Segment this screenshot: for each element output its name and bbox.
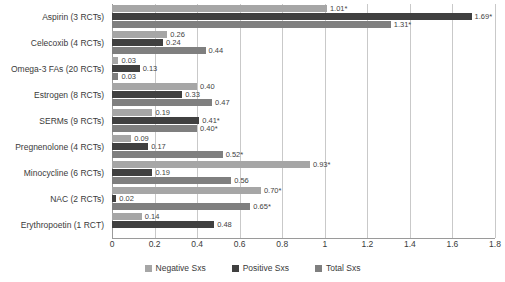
x-axis-tick-labels: 00.20.40.60.811.21.41.61.8 <box>112 240 495 254</box>
bar[interactable] <box>112 135 131 142</box>
bar-value-label: 0.17 <box>151 143 166 151</box>
bar-value-label: 0.09 <box>134 135 149 143</box>
bar-value-label: 0.93* <box>313 161 331 169</box>
bar-line: 1.01* <box>112 5 347 12</box>
bar[interactable] <box>112 143 148 150</box>
bar[interactable] <box>112 151 223 158</box>
bar-value-label: 0.02 <box>119 195 134 203</box>
bar-rows: 1.01*1.69*1.31*0.260.240.440.030.130.030… <box>112 4 495 238</box>
y-axis-label-7: NAC (2 RCTs) <box>0 195 104 204</box>
bar-value-label: 0.03 <box>121 57 136 65</box>
x-axis-tick: 0.4 <box>191 240 203 249</box>
bar-line: 0.14 <box>112 213 159 220</box>
bar[interactable] <box>112 109 152 116</box>
bar-line: 0.48 <box>112 221 232 228</box>
bar-value-label: 1.31* <box>394 21 412 29</box>
bar-value-label: 0.40 <box>200 83 215 91</box>
bar-value-label: 0.19 <box>155 169 170 177</box>
bar-line: 0.09 <box>112 135 149 142</box>
x-axis-line <box>112 238 495 239</box>
bar-line: 0.41* <box>112 117 220 124</box>
legend-label: Total Sxs <box>326 264 361 273</box>
bar-value-label: 0.33 <box>185 91 200 99</box>
bar[interactable] <box>112 213 142 220</box>
bar-line: 0.40 <box>112 83 215 90</box>
x-axis-tick: 1.8 <box>489 240 501 249</box>
bar-line: 1.69* <box>112 13 492 20</box>
legend-item-tot[interactable]: Total Sxs <box>315 264 361 273</box>
y-axis-label-1: Celecoxib (4 RCTs) <box>0 39 104 48</box>
y-axis-label-4: SERMs (9 RCTs) <box>0 117 104 126</box>
legend-swatch-icon <box>232 265 239 272</box>
bar-value-label: 0.48 <box>217 221 232 229</box>
bar-value-label: 0.56 <box>234 177 249 185</box>
bar[interactable] <box>112 221 214 228</box>
bar[interactable] <box>112 47 206 54</box>
bar-group: 0.70*0.020.65* <box>112 186 495 212</box>
bar-group: 0.030.130.03 <box>112 56 495 82</box>
bar-line: 0.26 <box>112 31 185 38</box>
bar-value-label: 0.40* <box>200 125 218 133</box>
bar[interactable] <box>112 39 163 46</box>
bar[interactable] <box>112 65 140 72</box>
bar[interactable] <box>112 99 212 106</box>
bar-line: 0.33 <box>112 91 200 98</box>
bar-group: 0.400.330.47 <box>112 82 495 108</box>
bar[interactable] <box>112 117 199 124</box>
bar-value-label: 0.65* <box>253 203 271 211</box>
bar[interactable] <box>112 57 118 64</box>
legend-item-neg[interactable]: Negative Sxs <box>145 264 206 273</box>
bar-value-label: 0.13 <box>143 65 158 73</box>
bar-line: 0.02 <box>112 195 134 202</box>
bar[interactable] <box>112 187 261 194</box>
bar-line: 0.17 <box>112 143 166 150</box>
bar[interactable] <box>112 195 116 202</box>
bar-line: 0.65* <box>112 203 271 210</box>
x-axis-tick: 0.8 <box>276 240 288 249</box>
bar-value-label: 0.70* <box>264 187 282 195</box>
y-axis-label-2: Omega-3 FAs (20 RCTs) <box>0 65 104 74</box>
y-axis-category-labels: Aspirin (3 RCTs)Celecoxib (4 RCTs)Omega-… <box>0 4 108 238</box>
bar-line: 0.70* <box>112 187 281 194</box>
bar-line: 0.44 <box>112 47 223 54</box>
bar-line: 0.52* <box>112 151 243 158</box>
bar-line: 0.13 <box>112 65 157 72</box>
y-axis-label-8: Erythropoetin (1 RCT) <box>0 221 104 230</box>
y-axis-label-3: Estrogen (8 RCTs) <box>0 91 104 100</box>
bar-line: 0.19 <box>112 109 170 116</box>
bar-value-label: 0.14 <box>145 213 160 221</box>
bar[interactable] <box>112 177 231 184</box>
bar[interactable] <box>112 125 197 132</box>
y-axis-label-0: Aspirin (3 RCTs) <box>0 13 104 22</box>
bar-line: 1.31* <box>112 21 411 28</box>
bar-line: 0.40* <box>112 125 218 132</box>
x-axis-tick: 0.2 <box>149 240 161 249</box>
gridline <box>495 4 496 238</box>
bar[interactable] <box>112 5 327 12</box>
x-axis-tick: 1.6 <box>447 240 459 249</box>
bar[interactable] <box>112 83 197 90</box>
bar-line: 0.19 <box>112 169 170 176</box>
bar-line: 0.47 <box>112 99 230 106</box>
bar[interactable] <box>112 13 472 20</box>
bar-line: 0.03 <box>112 57 136 64</box>
bar-group: 0.140.48 <box>112 212 495 238</box>
x-axis-tick: 0.6 <box>234 240 246 249</box>
bar[interactable] <box>112 31 167 38</box>
legend-item-pos[interactable]: Positive Sxs <box>232 264 289 273</box>
bar-chart: Aspirin (3 RCTs)Celecoxib (4 RCTs)Omega-… <box>0 0 505 282</box>
bar-group: 1.01*1.69*1.31* <box>112 4 495 30</box>
bar[interactable] <box>112 21 391 28</box>
bar-value-label: 0.24 <box>166 39 181 47</box>
chart-legend: Negative SxsPositive SxsTotal Sxs <box>0 264 505 273</box>
legend-label: Negative Sxs <box>156 264 206 273</box>
bar[interactable] <box>112 73 118 80</box>
bar[interactable] <box>112 161 310 168</box>
bar[interactable] <box>112 91 182 98</box>
legend-label: Positive Sxs <box>243 264 289 273</box>
bar[interactable] <box>112 203 250 210</box>
bar[interactable] <box>112 169 152 176</box>
x-axis-tick: 0 <box>110 240 115 249</box>
bar-group: 0.190.41*0.40* <box>112 108 495 134</box>
bar-value-label: 1.01* <box>330 5 348 13</box>
